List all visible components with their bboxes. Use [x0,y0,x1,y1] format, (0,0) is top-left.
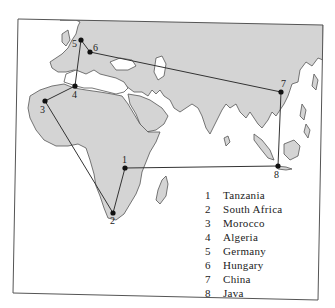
point-java[interactable] [275,163,280,168]
point-hungary[interactable] [87,49,92,54]
legend-number: 4 [205,230,223,244]
legend-number: 2 [205,202,223,216]
point-label-7: 7 [281,78,286,89]
legend-number: 5 [205,244,223,258]
point-label-5: 5 [72,38,77,49]
point-algeria[interactable] [72,83,77,88]
legend-label: China [223,272,251,286]
legend-label: Java [223,286,244,300]
point-tanzania[interactable] [122,165,127,170]
legend-item: 8 Java [205,286,325,300]
legend-item: 1 Tanzania [205,188,325,202]
point-label-8: 8 [274,169,279,180]
point-germany[interactable] [78,37,83,42]
legend-label: Algeria [223,230,258,244]
sumatra-landmass [254,134,274,160]
point-label-4: 4 [72,89,77,100]
madagascar-landmass [156,176,168,204]
point-label-6: 6 [93,42,98,53]
legend-number: 6 [205,258,223,272]
british-isles-landmass [62,30,70,46]
legend-label: South Africa [223,202,283,216]
legend: 1 Tanzania 2 South Africa 3 Morocco 4 Al… [205,188,325,300]
legend-item: 6 Hungary [205,258,325,272]
legend-label: Tanzania [223,188,265,202]
legend-number: 8 [205,286,223,300]
point-morocco[interactable] [42,98,47,103]
legend-item: 4 Algeria [205,230,325,244]
point-label-1: 1 [122,154,127,165]
philippines-landmass [300,104,310,138]
sri-lanka-landmass [224,136,230,146]
legend-item: 3 Morocco [205,216,325,230]
legend-number: 7 [205,272,223,286]
legend-label: Morocco [223,216,265,230]
legend-item: 5 Germany [205,244,325,258]
legend-number: 3 [205,216,223,230]
legend-number: 1 [205,188,223,202]
legend-item: 7 China [205,272,325,286]
point-label-3: 3 [40,104,45,115]
legend-label: Hungary [223,258,264,272]
borneo-landmass [284,140,300,160]
point-label-2: 2 [110,215,115,226]
legend-label: Germany [223,244,266,258]
japan-landmass [312,74,318,90]
point-china[interactable] [278,89,283,94]
legend-item: 2 South Africa [205,202,325,216]
